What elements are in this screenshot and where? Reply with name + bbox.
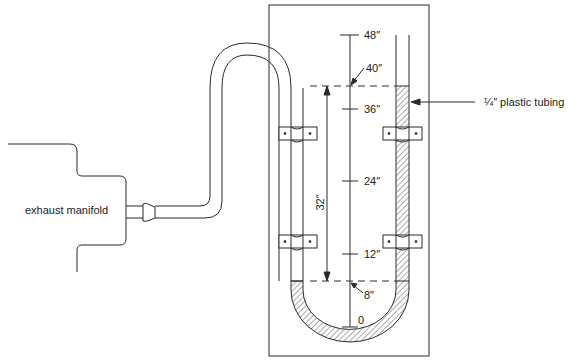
hose [155, 43, 291, 281]
difference-label-32: 32″ [315, 194, 326, 210]
manifold-label: exhaust manifold [25, 205, 108, 216]
scale-label-36: 36″ [364, 104, 380, 115]
scale-label-24: 24″ [364, 176, 380, 187]
tubing-leader-arrow [411, 99, 475, 105]
scale-label-12: 12″ [364, 249, 380, 260]
scale-label-48: 48″ [364, 30, 380, 41]
hose-connector [126, 203, 155, 221]
fluid-right-column [396, 86, 409, 281]
scale-label-0: 0 [358, 315, 364, 326]
level-label-8: 8″ [364, 290, 374, 301]
difference-dimension-arrow [324, 86, 330, 281]
tubing-label: ¼″ plastic tubing [484, 97, 564, 108]
manometer-diagram [0, 0, 581, 364]
level-label-40: 40″ [366, 63, 382, 74]
